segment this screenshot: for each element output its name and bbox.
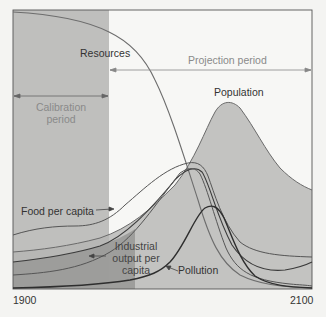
x-axis-start-label: 1900 xyxy=(13,294,36,306)
industrial-line1: Industrial xyxy=(106,240,166,252)
industrial-line2: output per xyxy=(106,252,166,264)
food-per-capita-label: Food per capita xyxy=(21,205,94,217)
pollution-label: Pollution xyxy=(178,264,218,276)
x-axis-end-label: 2100 xyxy=(290,294,313,306)
population-label: Population xyxy=(214,86,264,98)
projection-period-label: Projection period xyxy=(188,54,267,66)
calibration-line1: Calibration xyxy=(30,101,92,113)
calibration-period-label: Calibration period xyxy=(30,101,92,125)
industrial-output-label: Industrial output per capita xyxy=(106,240,166,276)
resources-label: Resources xyxy=(80,47,130,59)
calibration-line2: period xyxy=(30,113,92,125)
industrial-line3: capita xyxy=(106,264,166,276)
